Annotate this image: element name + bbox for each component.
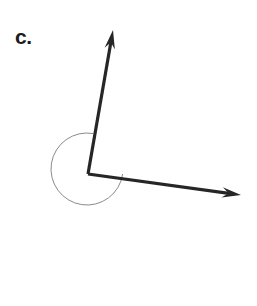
ray-up-group — [88, 30, 115, 174]
ray-right-group — [88, 174, 241, 198]
angle-diagram-svg — [0, 0, 257, 306]
right-down-ray-line — [88, 174, 231, 194]
reflex-arc-group — [51, 133, 123, 205]
upward-ray-line — [88, 40, 111, 174]
reflex-angle-arc — [51, 133, 123, 205]
angle-figure: c. — [0, 0, 257, 306]
